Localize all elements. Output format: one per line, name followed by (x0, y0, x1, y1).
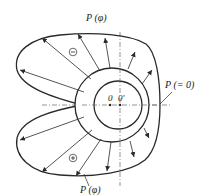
center-o-label: 0 (108, 94, 113, 103)
zero-pressure-leader (160, 92, 172, 104)
center-o (109, 104, 112, 107)
top-pressure-label: P (φ) (86, 13, 107, 23)
zero-pressure-label: P (= 0) (165, 80, 194, 90)
bottom-pressure-label: P (φ) (80, 185, 101, 195)
bearing-diagram (0, 0, 203, 196)
center-o-prime-label: 0' (118, 94, 124, 103)
center-o-prime (119, 104, 122, 107)
